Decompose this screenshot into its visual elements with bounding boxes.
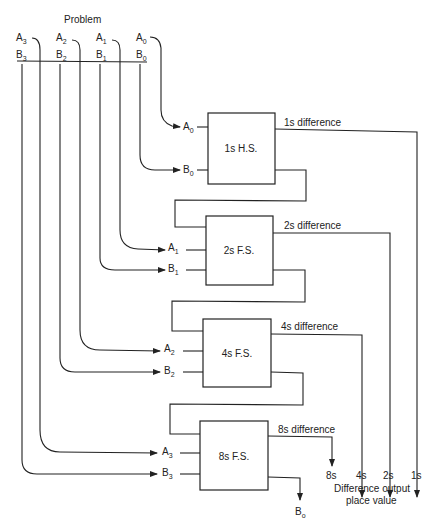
stage4-b-input-label: B3	[162, 467, 173, 480]
diff-wire-4s	[271, 334, 362, 497]
stage2-b-input-label: B1	[168, 263, 179, 276]
input-label-a0: A0	[136, 32, 147, 45]
output-caption-line2: place value	[346, 495, 397, 506]
wire-a3	[32, 38, 157, 453]
stage1-label: 1s H.S.	[225, 143, 258, 154]
b-input-wires	[22, 64, 180, 474]
stage4-diff-label: 8s difference	[278, 424, 336, 435]
wire-a0	[150, 37, 180, 127]
stage2-a-input-label: A1	[168, 242, 179, 255]
stage4-a-input-label: A3	[162, 446, 173, 459]
diff-wire-8s	[268, 436, 332, 466]
stage1-diff-label: 1s difference	[284, 117, 342, 128]
input-label-a1: A1	[96, 32, 107, 45]
input-label-b1: B1	[96, 49, 107, 62]
input-label-b3: B3	[16, 49, 27, 62]
stage1-b-input-label: B0	[183, 164, 194, 177]
stage2-diff-label: 2s difference	[284, 220, 342, 231]
problem-title: Problem	[64, 14, 101, 25]
stage1-a-input-label: A0	[183, 121, 194, 134]
place-value-1s: 1s	[411, 470, 422, 481]
wire-b2	[60, 64, 160, 372]
wire-b3	[22, 64, 157, 474]
stage3-diff-label: 4s difference	[281, 321, 339, 332]
stage3-b-input-label: B2	[164, 365, 175, 378]
place-value-2s: 2s	[383, 470, 394, 481]
subtractor-diagram: Problem A3 B3 A2 B2 A1 B1 A0 B0 A0	[0, 0, 429, 530]
output-caption-line1: Difference output	[334, 483, 410, 494]
a-input-wires	[32, 37, 180, 453]
stage3-label: 4s F.S.	[222, 348, 253, 359]
wire-a1	[112, 40, 165, 250]
borrow-out-wire	[268, 477, 300, 500]
place-value-4s: 4s	[356, 470, 367, 481]
borrow-out-label: Bo	[295, 506, 306, 519]
input-label-b2: B2	[56, 49, 67, 62]
wire-b0	[140, 64, 180, 170]
input-label-b0: B0	[136, 49, 147, 62]
diff-wire-1s	[275, 129, 417, 497]
stage3-a-input-label: A2	[164, 343, 175, 356]
input-label-a3: A3	[16, 32, 27, 45]
output-place-values: 8s 4s 2s 1s Difference output place valu…	[326, 470, 422, 506]
stage4-label: 8s F.S.	[219, 451, 250, 462]
input-label-a2: A2	[56, 32, 67, 45]
stage-8s-full-subtractor: A3 B3 8s F.S. 8s difference Bo	[162, 421, 336, 519]
problem-divider	[17, 61, 147, 62]
place-value-8s: 8s	[326, 470, 337, 481]
top-input-labels: A3 B3 A2 B2 A1 B1 A0 B0	[16, 32, 147, 62]
wire-b1	[100, 64, 165, 270]
stage2-label: 2s F.S.	[224, 245, 255, 256]
wire-a2	[72, 40, 160, 351]
